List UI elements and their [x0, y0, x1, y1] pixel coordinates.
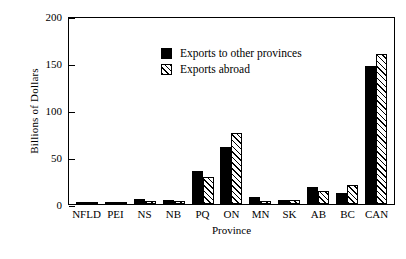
bar [76, 202, 87, 204]
solid-black-swatch [161, 48, 172, 59]
bar [203, 177, 214, 204]
x-axis-tick-labels: NFLDPEINSNBPQONMNSKABBCCAN [68, 207, 395, 223]
x-axis-tick-label: PQ [188, 207, 217, 223]
bar [260, 201, 271, 204]
bar [105, 202, 116, 204]
legend-item-exports-abroad: Exports abroad [161, 63, 302, 75]
bar-group [246, 18, 275, 204]
bar-group [102, 18, 131, 204]
y-axis-tick-label: 150 [22, 59, 62, 69]
bar [192, 171, 203, 204]
x-axis-tick-label: NFLD [72, 207, 101, 223]
bar-chart: Billions of Dollars 050100150200 Exports… [0, 0, 406, 259]
x-axis-tick-label: PEI [101, 207, 130, 223]
bar [278, 200, 289, 204]
y-axis-tick-label: 50 [22, 153, 62, 163]
bar-groups [69, 18, 394, 204]
x-axis-tick-label: AB [304, 207, 333, 223]
x-axis-tick-label: NS [130, 207, 159, 223]
x-axis-tick-label: SK [275, 207, 304, 223]
bar-group [73, 18, 102, 204]
bar [87, 202, 98, 204]
plot-area: Exports to other provinces Exports abroa… [68, 17, 395, 205]
bar-group [304, 18, 333, 204]
bar [376, 54, 387, 204]
bar-group [159, 18, 188, 204]
bar [347, 185, 358, 204]
bar-group [275, 18, 304, 204]
bar-group [361, 18, 390, 204]
bar [145, 201, 156, 204]
y-axis-tick-label: 0 [22, 200, 62, 210]
legend-label: Exports abroad [180, 63, 250, 75]
hatched-swatch [161, 64, 172, 75]
x-axis-tick-label: NB [159, 207, 188, 223]
bar [174, 201, 185, 204]
legend-label: Exports to other provinces [180, 47, 302, 59]
x-axis-title: Province [68, 224, 395, 236]
legend-item-exports-to-other-provinces: Exports to other provinces [161, 47, 302, 59]
y-axis-tick-label: 200 [22, 12, 62, 22]
bar-group [332, 18, 361, 204]
x-axis-tick-label: BC [333, 207, 362, 223]
bar [318, 191, 329, 204]
bar [134, 199, 145, 204]
bar [336, 193, 347, 204]
bar [116, 202, 127, 204]
bar-group [188, 18, 217, 204]
x-axis-tick-label: MN [246, 207, 275, 223]
x-axis-tick-label: ON [217, 207, 246, 223]
bar [365, 66, 376, 204]
legend: Exports to other provinces Exports abroa… [161, 47, 302, 75]
bar [220, 147, 231, 204]
bar [289, 200, 300, 204]
bar [249, 197, 260, 204]
bar [231, 133, 242, 204]
bar [163, 200, 174, 204]
y-axis-tick-label: 100 [22, 106, 62, 116]
bar-group [217, 18, 246, 204]
x-axis-tick-label: CAN [362, 207, 391, 223]
bar-group [131, 18, 160, 204]
bar [307, 187, 318, 204]
